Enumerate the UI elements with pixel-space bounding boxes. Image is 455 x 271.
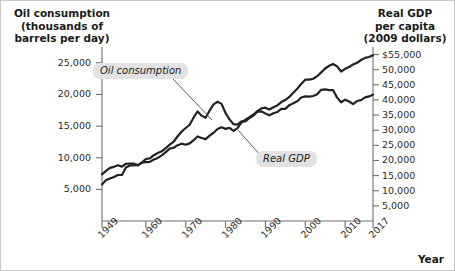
chart-figure: Oil consumption (thousands of barrels pe…: [0, 0, 455, 271]
right-tick-label: 50,000: [382, 65, 444, 75]
right-tick-label: 10,000: [382, 186, 444, 196]
right-tick-label: 15,000: [382, 171, 444, 181]
right-tick-label: 25,000: [382, 140, 444, 150]
right-tick-label: 40,000: [382, 95, 444, 105]
series-line-oil-consumption: [102, 89, 373, 184]
left-tick-label: 20,000: [29, 89, 91, 99]
left-axis-ticks: [96, 63, 102, 190]
right-tick-label: 20,000: [382, 155, 444, 165]
right-tick-label: $55,000: [382, 50, 444, 60]
left-tick-label: 10,000: [29, 153, 91, 163]
right-tick-label: 30,000: [382, 125, 444, 135]
left-tick-label: 5,000: [29, 184, 91, 194]
left-tick-label: 15,000: [29, 121, 91, 131]
left-tick-label: 25,000: [29, 58, 91, 68]
right-axis-ticks: [373, 55, 379, 206]
series-label-real-gdp: Real GDP: [256, 151, 317, 167]
right-tick-label: 35,000: [382, 110, 444, 120]
series-label-oil-consumption: Oil consumption: [93, 63, 188, 79]
right-tick-label: 45,000: [382, 80, 444, 90]
right-tick-label: 5,000: [382, 201, 444, 211]
